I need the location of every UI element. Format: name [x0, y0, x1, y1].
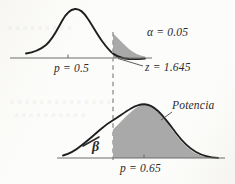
- z-critical-label: z = 1.645: [145, 62, 191, 74]
- beta-label: β: [92, 140, 99, 154]
- power-region-fill: [113, 105, 218, 158]
- alpha-region-fill: [113, 34, 145, 59]
- p-null-label: p = 0.5: [54, 63, 89, 75]
- figure-container: a a a a a a a a a a a a a a a a a a a a …: [0, 0, 235, 184]
- distributions-plot: [0, 0, 235, 184]
- power-label: Potencia: [172, 100, 214, 112]
- p-alt-label: p = 0.65: [120, 163, 161, 175]
- alpha-label: α = 0.05: [147, 27, 188, 39]
